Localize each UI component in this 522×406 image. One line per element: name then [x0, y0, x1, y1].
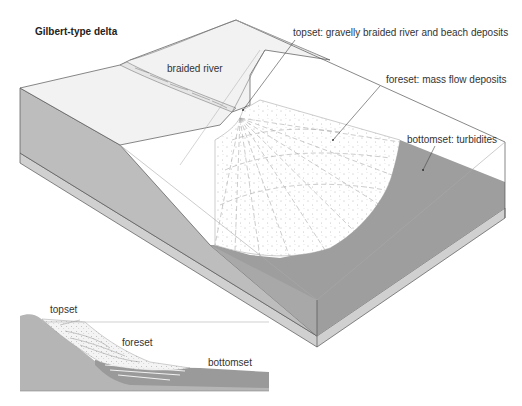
xs-label-bottomset: bottomset [208, 357, 252, 368]
diagram-title: Gilbert-type delta [35, 26, 118, 37]
block-diagram: braided river topset: gravelly braided r… [20, 20, 508, 347]
xs-label-topset: topset [50, 304, 77, 315]
label-topset: topset: gravelly braided river and beach… [293, 27, 508, 38]
cross-section: topset foreset bottomset [20, 304, 269, 391]
label-foreset: foreset: mass flow deposits [386, 74, 507, 85]
gilbert-delta-diagram: Gilbert-type delta [0, 0, 522, 406]
label-braided-river: braided river [167, 63, 223, 74]
label-bottomset: bottomset: turbidites [407, 134, 497, 145]
xs-label-foreset: foreset [122, 337, 153, 348]
